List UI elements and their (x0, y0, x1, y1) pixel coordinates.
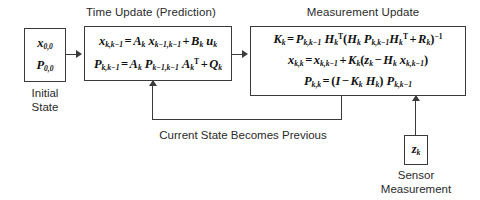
sensor-caption-line2: Measurement (356, 182, 476, 196)
sensor-caption-line1: Sensor (356, 168, 476, 182)
time-update-equation-1: xk,k−1=Ak xk−1,k−1+Bk uk (99, 35, 217, 49)
feedback-up-segment (152, 84, 153, 119)
initial-state-caption: Initial State (9, 86, 81, 114)
feedback-down-segment (341, 96, 342, 120)
measurement-update-box: Kk=Pk,k−1 HkT(Hk Pk,k−1HkT+Rk)−1 xk,k=xk… (250, 26, 466, 96)
time-update-equation-2: Pk,k−1=Ak Pk−1,k−1 AkT+Qk (94, 58, 222, 72)
sensor-to-measurement-arrowhead (412, 95, 420, 101)
feedback-arrowhead (149, 80, 157, 86)
measurement-update-heading: Measurement Update (268, 6, 458, 18)
sensor-measurement-variable: zk (412, 143, 421, 157)
feedback-label: Current State Becomes Previous (138, 128, 348, 142)
initial-to-time-arrowhead (76, 50, 82, 58)
initial-state-x: x0,0 (37, 37, 53, 51)
time-update-heading: Time Update (Prediction) (62, 6, 240, 18)
initial-state-box: x0,0 P0,0 (24, 28, 66, 82)
sensor-measurement-box: zk (404, 135, 428, 165)
initial-state-p: P0,0 (36, 59, 53, 73)
measurement-update-equation-1: Kk=Pk,k−1 HkT(Hk Pk,k−1HkT+Rk)−1 (273, 33, 442, 47)
measurement-update-equation-2: xk,k=xk,k−1+Kk(zk−Hk xk,k−1) (288, 54, 428, 68)
time-update-box: xk,k−1=Ak xk−1,k−1+Bk uk Pk,k−1=Ak Pk−1,… (84, 26, 232, 81)
sensor-measurement-caption: Sensor Measurement (356, 168, 476, 196)
kalman-filter-diagram: Time Update (Prediction) Measurement Upd… (0, 0, 480, 200)
measurement-update-equation-3: Pk,k=(I−Kk Hk) Pk,k−1 (304, 75, 412, 89)
time-to-measurement-arrowhead (242, 50, 248, 58)
feedback-horizontal-segment (152, 119, 342, 120)
initial-state-caption-line1: Initial (9, 86, 81, 100)
sensor-to-measurement-connector (415, 100, 416, 135)
initial-state-caption-line2: State (9, 100, 81, 114)
